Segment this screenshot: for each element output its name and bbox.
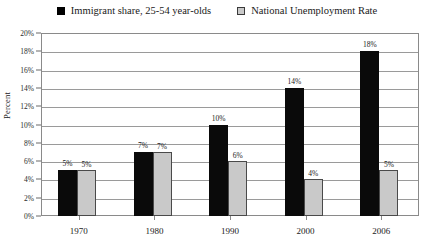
x-tick-mark (154, 216, 155, 220)
gridline (42, 89, 418, 90)
bar-chart: Immigrant share, 25-54 year-olds Nationa… (0, 0, 434, 251)
gridline (42, 180, 418, 181)
y-tick-label: 18% (20, 47, 34, 56)
gridline (42, 107, 418, 108)
y-tick-label: 8% (24, 138, 34, 147)
gridline (42, 52, 418, 53)
gridline (42, 199, 418, 200)
y-axis-ticks: 0%2%4%6%8%10%12%14%16%18%20% (0, 0, 34, 251)
x-tick-label: 2000 (297, 226, 315, 236)
x-tick-mark (230, 216, 231, 220)
x-tick-label: 1990 (221, 226, 239, 236)
legend-label-immigrant-share: Immigrant share, 25-54 year-olds (71, 6, 211, 17)
y-tick-label: 12% (20, 102, 34, 111)
gridline (42, 126, 418, 127)
x-tick-mark (79, 216, 80, 220)
gridline (42, 71, 418, 72)
y-tick-label: 2% (24, 193, 34, 202)
y-tick-label: 14% (20, 83, 34, 92)
x-tick-mark (306, 216, 307, 220)
x-tick-mark (381, 216, 382, 220)
gridline (42, 162, 418, 163)
y-tick-label: 10% (20, 120, 34, 129)
legend-swatch-icon-immigrant-share (57, 7, 65, 15)
y-tick-label: 4% (24, 175, 34, 184)
x-tick-label: 1970 (70, 226, 88, 236)
plot-area (41, 33, 419, 216)
legend-entry-immigrant-share: Immigrant share, 25-54 year-olds (57, 6, 211, 17)
y-tick-label: 20% (20, 29, 34, 38)
legend-swatch-icon-national-unemployment-rate (237, 7, 245, 15)
legend-entry-national-unemployment-rate: National Unemployment Rate (237, 6, 377, 17)
x-tick-label: 1980 (145, 226, 163, 236)
y-tick-label: 16% (20, 65, 34, 74)
legend-label-national-unemployment-rate: National Unemployment Rate (251, 6, 377, 17)
gridline (42, 144, 418, 145)
x-tick-label: 2006 (372, 226, 390, 236)
y-tick-label: 6% (24, 157, 34, 166)
y-tick-label: 0% (24, 212, 34, 221)
chart-legend: Immigrant share, 25-54 year-olds Nationa… (0, 6, 434, 17)
x-axis-ticks: 19701980199020002006 (41, 220, 419, 240)
